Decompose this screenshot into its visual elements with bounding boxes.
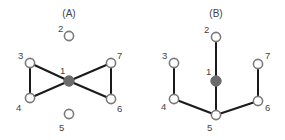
node-label-2: 2: [58, 23, 63, 34]
graph-diagram: (A) 1234567 (B) 1234567: [0, 0, 285, 140]
node-label-7: 7: [117, 50, 122, 61]
node-label-2: 2: [204, 24, 209, 35]
panel-b-graph: (B) 1234567: [161, 8, 270, 133]
node-label-4: 4: [161, 101, 166, 112]
node-label-4: 4: [16, 102, 21, 113]
node-label-5: 5: [59, 122, 64, 133]
node-7: [106, 58, 115, 67]
node-label-3: 3: [18, 50, 23, 61]
node-6: [253, 96, 262, 105]
panel-b-title: (B): [209, 8, 222, 19]
node-label-3: 3: [162, 50, 167, 61]
panel-a-nodes: 1234567: [16, 23, 122, 133]
node-2: [64, 31, 73, 40]
node-label-5: 5: [207, 122, 212, 133]
node-label-6: 6: [117, 103, 122, 114]
edge-1-6: [69, 81, 111, 99]
node-4: [25, 93, 34, 102]
node-1: [211, 76, 221, 86]
node-7: [253, 59, 262, 68]
node-label-6: 6: [265, 102, 270, 113]
node-6: [106, 94, 115, 103]
node-5: [64, 109, 73, 118]
node-5: [211, 110, 220, 119]
node-3: [25, 58, 34, 67]
node-4: [169, 94, 178, 103]
node-label-1: 1: [60, 65, 65, 76]
edge-4-5: [174, 99, 216, 115]
node-label-7: 7: [265, 50, 270, 61]
edge-5-6: [216, 101, 258, 115]
edge-1-7: [69, 63, 111, 81]
panel-a-graph: (A) 1234567: [16, 8, 122, 133]
panel-b-nodes: 1234567: [161, 24, 270, 133]
node-label-1: 1: [206, 66, 211, 77]
panel-a-title: (A): [62, 8, 75, 19]
node-2: [211, 32, 220, 41]
edge-4-1: [30, 81, 69, 98]
node-1: [64, 76, 74, 86]
node-3: [169, 58, 178, 67]
